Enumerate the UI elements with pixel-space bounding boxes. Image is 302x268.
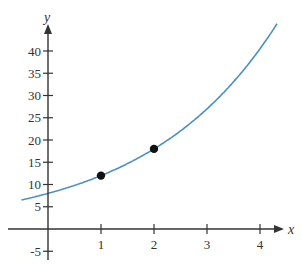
y-tick-label: 5 <box>35 199 42 214</box>
data-point <box>97 171 105 179</box>
chart-canvas: 1234-5510152025303540 x y <box>0 0 302 268</box>
exponential-curve <box>22 24 278 200</box>
y-tick-label: 15 <box>28 155 41 170</box>
x-tick-label: 2 <box>151 237 158 252</box>
y-tick-label: -5 <box>30 244 41 259</box>
curve-path <box>22 24 278 200</box>
x-tick-label: 3 <box>204 237 211 252</box>
data-point <box>150 145 158 153</box>
x-tick-label: 1 <box>98 237 105 252</box>
axes: 1234-5510152025303540 <box>8 26 282 260</box>
x-axis-label: x <box>287 222 295 237</box>
y-axis-label: y <box>42 10 51 25</box>
y-tick-label: 20 <box>28 133 41 148</box>
data-points <box>97 145 158 180</box>
y-tick-label: 10 <box>28 177 41 192</box>
y-tick-label: 25 <box>28 110 41 125</box>
y-tick-label: 30 <box>28 88 41 103</box>
y-tick-label: 40 <box>28 44 41 59</box>
y-tick-label: 35 <box>28 66 41 81</box>
x-tick-label: 4 <box>257 237 264 252</box>
